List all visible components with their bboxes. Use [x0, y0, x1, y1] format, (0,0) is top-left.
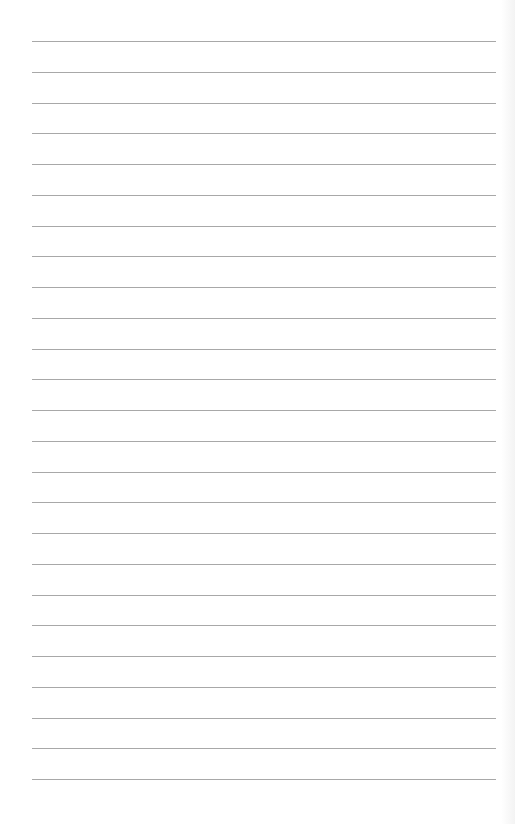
ruled-line [32, 441, 496, 442]
ruled-line [32, 287, 496, 288]
ruled-line [32, 502, 496, 503]
ruled-line [32, 472, 496, 473]
page-edge-shadow [501, 0, 515, 824]
ruled-line [32, 41, 496, 42]
ruled-line [32, 379, 496, 380]
ruled-line [32, 564, 496, 565]
ruled-line [32, 72, 496, 73]
ruled-line [32, 625, 496, 626]
ruled-line [32, 687, 496, 688]
ruled-line [32, 779, 496, 780]
lined-paper-page [0, 0, 515, 824]
ruled-line [32, 318, 496, 319]
ruled-line [32, 195, 496, 196]
ruled-line [32, 533, 496, 534]
ruled-line [32, 349, 496, 350]
ruled-line [32, 133, 496, 134]
ruled-line [32, 226, 496, 227]
ruled-line [32, 748, 496, 749]
ruled-line [32, 595, 496, 596]
ruled-line [32, 656, 496, 657]
ruled-line [32, 410, 496, 411]
ruled-line [32, 164, 496, 165]
ruled-line [32, 103, 496, 104]
ruled-line [32, 718, 496, 719]
ruled-line [32, 256, 496, 257]
